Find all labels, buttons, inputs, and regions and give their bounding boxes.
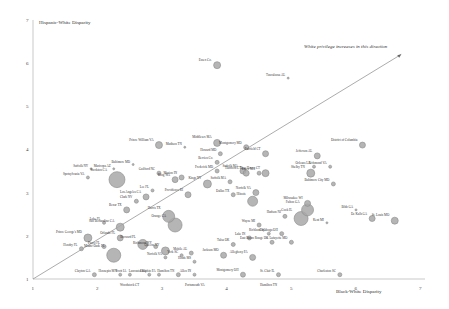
- point-label: Kent MI: [313, 218, 324, 222]
- data-point: [231, 242, 235, 246]
- data-point: [305, 200, 311, 206]
- data-point: [193, 273, 196, 276]
- x-tick-label: 3: [161, 286, 164, 291]
- data-point: [263, 151, 269, 157]
- point-label: Los Angeles CA: [120, 190, 142, 194]
- point-label: Norfolk VA: [147, 252, 163, 256]
- data-point: [203, 180, 211, 188]
- data-point: [119, 273, 122, 276]
- point-label: Baltimore City MD: [304, 178, 330, 182]
- data-point: [116, 223, 124, 231]
- data-point: [128, 273, 131, 276]
- data-point: [215, 160, 219, 164]
- data-point: [124, 207, 130, 213]
- point-label: Frederick MD: [195, 165, 214, 169]
- point-label: Kings NY: [188, 176, 202, 180]
- point-label: Montgomery OH: [216, 268, 239, 272]
- y-tick-label: 7: [26, 18, 29, 23]
- data-point: [231, 193, 235, 197]
- point-label: Fulton GA: [286, 200, 300, 204]
- x-tick-label: 1: [32, 286, 35, 291]
- point-label: Essex Co.: [199, 58, 212, 62]
- data-point: [270, 240, 274, 244]
- data-point: [92, 273, 96, 277]
- point-label: Prince George's MD: [56, 230, 83, 234]
- point-label: Cook IL: [281, 208, 292, 212]
- point-label: Norfolk VA: [236, 186, 252, 190]
- data-point: [287, 77, 289, 79]
- data-point: [109, 172, 125, 188]
- data-point: [313, 165, 316, 168]
- data-point: [359, 142, 365, 148]
- data-point: [338, 273, 342, 277]
- data-point: [314, 153, 320, 159]
- point-label: St. Louis MO: [372, 213, 390, 217]
- data-point: [280, 232, 284, 236]
- point-label: Harris TX: [148, 206, 162, 210]
- point-label: De Kalb GA: [351, 212, 368, 216]
- point-label: Queens NY: [144, 243, 160, 247]
- point-label: Charleston SC: [317, 269, 336, 273]
- data-point: [326, 222, 328, 224]
- point-label: Suffolk NY: [73, 164, 89, 168]
- data-point: [240, 272, 245, 277]
- data-point: [250, 254, 256, 260]
- point-label: Hartford CT: [225, 166, 241, 170]
- x-axis-label: Black-White Disparity: [336, 289, 382, 294]
- data-point: [164, 256, 167, 259]
- data-point: [331, 182, 335, 186]
- point-label: Scott IA: [116, 269, 127, 273]
- data-point: [79, 247, 83, 251]
- data-point: [189, 251, 193, 255]
- point-label: Wayne MI: [242, 219, 255, 223]
- point-label: King WA: [158, 173, 171, 177]
- data-point: [86, 176, 89, 179]
- point-label: Providence RI: [165, 188, 183, 192]
- point-label: Prince William VA: [129, 138, 154, 142]
- y-tick-label: 5: [26, 104, 29, 109]
- point-label: Fairfield CT: [245, 147, 261, 151]
- data-point: [221, 252, 227, 258]
- point-label: Hudson NJ: [267, 210, 282, 214]
- data-point: [107, 248, 121, 262]
- point-label: Cuyahoga OH: [259, 228, 278, 232]
- data-point: [391, 217, 398, 224]
- point-label: Suffolk MA: [211, 176, 227, 180]
- data-point: [132, 164, 134, 166]
- point-label: Orlando FL: [100, 231, 115, 235]
- y-tick-label: 1: [26, 277, 29, 282]
- point-label: Miami-Dade FL: [84, 244, 105, 248]
- data-point: [113, 168, 115, 170]
- point-label: St. Clair IL: [260, 269, 274, 273]
- point-label: Montgomery MD: [219, 141, 242, 145]
- point-label: Bibb GA: [341, 205, 353, 209]
- point-label: Orange CA: [152, 214, 167, 218]
- point-label: East Baton Rouge LA: [240, 236, 269, 240]
- data-point: [329, 165, 332, 168]
- data-point: [148, 273, 151, 276]
- point-label: Allen IN: [180, 269, 192, 273]
- point-label: Clayton GA: [75, 269, 91, 273]
- data-point: [193, 260, 196, 263]
- point-label: Hendry FL: [63, 243, 77, 247]
- y-tick-label: 6: [26, 61, 29, 66]
- point-label: Clark NV: [120, 195, 133, 199]
- point-label: New Haven CT: [240, 166, 260, 170]
- data-point: [228, 180, 232, 184]
- point-label: Tuscaloosa AL: [266, 73, 285, 77]
- point-label: Portsmouth VA: [185, 283, 205, 287]
- y-tick-label: 2: [26, 234, 29, 239]
- point-label: Woodstock CT: [120, 283, 139, 287]
- data-point: [214, 62, 221, 69]
- data-point: [151, 189, 154, 192]
- point-label: District of Columbia: [331, 138, 358, 142]
- data-point: [176, 273, 180, 277]
- point-label: Richmond VA: [308, 161, 327, 165]
- bubble-chart: 1234567 1234567 Hispanic-White Disparity…: [0, 0, 449, 309]
- point-label: Dallas TX: [216, 189, 230, 193]
- data-point: [143, 194, 149, 200]
- x-tick-label: 7: [419, 286, 422, 291]
- point-label: Shelby TN: [291, 165, 306, 169]
- data-point: [179, 175, 184, 180]
- data-point: [215, 169, 219, 173]
